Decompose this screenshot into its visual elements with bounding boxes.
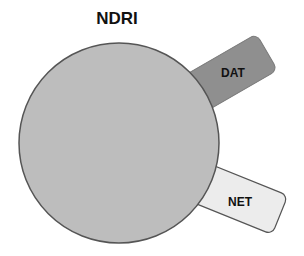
ndri-title: NDRI: [96, 9, 138, 28]
diagram-canvas: NDRI DAT NET: [0, 0, 304, 256]
ndri-circle: [19, 43, 219, 243]
dat-label: DAT: [221, 66, 245, 80]
net-label: NET: [228, 195, 253, 209]
